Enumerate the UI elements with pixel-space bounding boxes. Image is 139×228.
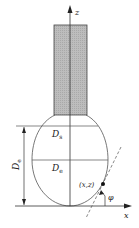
de-dimension-label: De — [11, 159, 22, 171]
x-axis-label: x — [124, 211, 129, 220]
angle-label: φ — [108, 193, 114, 202]
z-axis-label: z — [74, 8, 80, 17]
capillary-tube — [54, 25, 87, 115]
ds-label: Ds — [51, 129, 62, 140]
dimension-arrow-down-icon — [22, 199, 26, 205]
pendant-drop-diagram: z Ds De De x (x,z) φ — [0, 0, 139, 228]
dimension-arrow-up-icon — [22, 127, 26, 133]
point-marker — [101, 182, 105, 186]
point-label: (x,z) — [79, 181, 95, 189]
de-inner-label: De — [51, 163, 63, 174]
z-axis-arrow-icon — [68, 5, 73, 13]
x-axis-arrow-icon — [124, 204, 132, 209]
